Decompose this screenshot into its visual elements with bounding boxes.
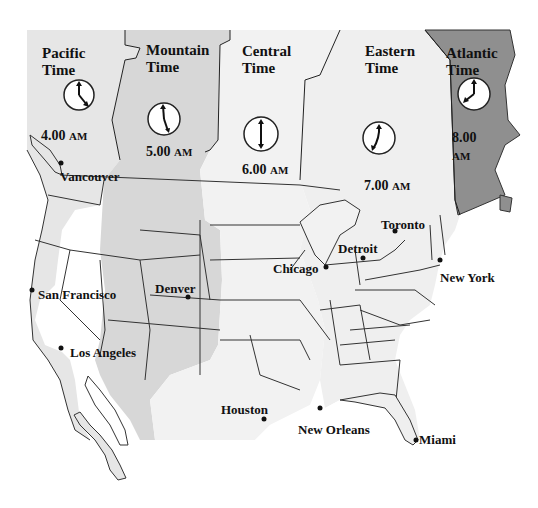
time-ampm: AM [392,180,410,192]
zone-name-line2: Time [242,60,291,77]
city-label-chicago: Chicago [273,262,319,275]
zone-title-pacific: Pacific Time [42,45,85,79]
time-central: 6.00 AM [242,163,288,177]
city-label-los-angeles: Los Angeles [70,346,136,359]
time-ampm: AM [174,146,192,158]
zone-title-mountain: Mountain Time [146,42,209,76]
clock-pacific [64,80,94,110]
city-label-san-francisco: San Francisco [38,288,116,301]
time-eastern: 7.00 AM [364,179,410,193]
zone-name: Central [242,43,291,60]
zone-name-line2: Time [446,62,498,79]
newfoundland-island [500,195,512,212]
time-atlantic: 8.00 AM [452,129,477,165]
dot-houston [262,417,267,422]
clock-atlantic [458,78,490,110]
dot-san-francisco [30,288,35,293]
clock-eastern [363,122,395,154]
time-value: 7.00 [364,178,389,193]
zone-name: Mountain [146,42,209,59]
city-label-new-york: New York [440,271,495,284]
zone-name-line2: Time [146,59,209,76]
time-value: 4.00 [41,128,66,143]
dot-detroit [361,256,366,261]
dot-chicago [324,265,329,270]
time-ampm: AM [69,130,87,142]
zone-title-central: Central Time [242,43,291,77]
dot-los-angeles [59,346,64,351]
zone-name: Eastern [365,43,415,60]
dot-new-orleans [318,406,323,411]
time-zone-map: Pacific Time Mountain Time Central Time … [0,0,538,508]
city-label-detroit: Detroit [338,242,377,255]
city-label-denver: Denver [155,282,195,295]
time-ampm: AM [452,147,477,165]
time-value: 6.00 [242,162,267,177]
time-value: 8.00 [452,129,477,147]
zone-name: Atlantic [446,45,498,62]
time-mountain: 5.00 AM [146,145,192,159]
zone-title-eastern: Eastern Time [365,43,415,77]
city-label-houston: Houston [221,403,268,416]
clock-mountain [148,103,180,135]
time-ampm: AM [270,164,288,176]
zone-name-line2: Time [42,62,85,79]
dot-miami [414,438,419,443]
city-label-new-orleans: New Orleans [298,423,370,436]
clock-central [244,117,278,151]
city-label-toronto: Toronto [381,218,425,231]
dot-vancouver [59,161,64,166]
zone-name: Pacific [42,45,85,62]
zone-title-atlantic: Atlantic Time [446,45,498,79]
zone-name-line2: Time [365,60,415,77]
time-value: 5.00 [146,144,171,159]
time-pacific: 4.00 AM [41,129,87,143]
city-label-miami: Miami [419,433,456,446]
dot-new-york [438,258,443,263]
city-label-vancouver: Vancouver [60,170,119,183]
